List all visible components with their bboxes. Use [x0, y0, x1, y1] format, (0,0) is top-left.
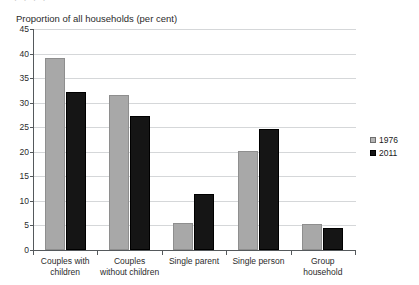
x-label-couples-without-children: Coupleswithout children: [97, 256, 161, 278]
x-axis-separator: [291, 250, 292, 255]
y-tick-label-20: 20: [20, 147, 29, 157]
legend-label-2011: 2011: [379, 148, 397, 158]
y-axis-tick-labels: 051015202530354045: [0, 29, 29, 250]
bar-2011-single-person: [259, 129, 279, 250]
chart-legend: 19762011: [370, 133, 398, 159]
black-square-icon: [370, 150, 376, 156]
light-gray-square-icon: [370, 137, 376, 143]
y-tick-label-35: 35: [20, 73, 29, 83]
bar-2011-couples-without-children: [130, 116, 150, 250]
bar-group: [162, 29, 226, 250]
bar-2011-group-household: [323, 228, 343, 250]
cropped-top-text-label: · · · ·: [14, 0, 48, 5]
x-label-couples-with-children: Couples withchildren: [33, 256, 97, 278]
y-tick-label-45: 45: [20, 24, 29, 34]
bar-1976-couples-without-children: [109, 95, 129, 250]
x-axis-separator: [162, 250, 163, 255]
x-axis-separator: [97, 250, 98, 255]
x-label-single-person: Single person: [226, 256, 290, 267]
y-tick-label-30: 30: [20, 98, 29, 108]
y-tick-label-40: 40: [20, 49, 29, 59]
x-axis-separator: [226, 250, 227, 255]
bar-2011-single-parent: [194, 194, 214, 250]
y-tick-label-25: 25: [20, 122, 29, 132]
y-tick-label-5: 5: [24, 220, 29, 230]
legend-item-2011[interactable]: 2011: [370, 146, 398, 159]
bar-1976-single-person: [238, 151, 258, 250]
x-axis-category-labels: Couples withchildrenCoupleswithout child…: [33, 256, 355, 284]
bar-group: [33, 29, 97, 250]
cropped-top-text: · · · ·: [0, 0, 419, 7]
bar-group: [226, 29, 290, 250]
bar-2011-couples-with-children: [66, 92, 86, 250]
x-axis-separator: [33, 250, 34, 255]
bar-1976-couples-with-children: [45, 58, 65, 250]
gridline-0: [34, 250, 356, 251]
legend-item-1976[interactable]: 1976: [370, 133, 398, 146]
y-tick-label-10: 10: [20, 196, 29, 206]
chart-title: Proportion of all households (per cent): [16, 13, 177, 24]
y-tick-label-0: 0: [24, 245, 29, 255]
bar-1976-group-household: [302, 224, 322, 250]
bar-1976-single-parent: [173, 223, 193, 250]
bar-group: [291, 29, 355, 250]
legend-label-1976: 1976: [379, 135, 398, 145]
bar-chart: · · · · Proportion of all households (pe…: [0, 0, 419, 285]
bar-group: [97, 29, 161, 250]
y-tick-label-15: 15: [20, 171, 29, 181]
x-label-group-household: Grouphousehold: [291, 256, 355, 278]
x-label-single-parent: Single parent: [162, 256, 226, 267]
bars-layer: [33, 29, 355, 250]
x-axis-separator: [355, 250, 356, 255]
